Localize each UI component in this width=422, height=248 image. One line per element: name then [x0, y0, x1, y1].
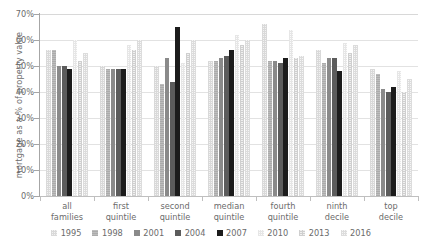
bar [175, 27, 179, 196]
bar [391, 87, 395, 196]
bar [273, 61, 277, 196]
bar [111, 69, 115, 196]
bar [106, 69, 110, 196]
bar [245, 40, 249, 196]
bar [219, 58, 223, 196]
bar [208, 61, 212, 196]
x-axis-category-label-line: quintile [148, 212, 202, 223]
legend-item-2007[interactable]: 2007 [217, 228, 247, 238]
bar [299, 56, 303, 196]
bar [327, 58, 331, 196]
bar [386, 92, 390, 196]
bar [181, 63, 185, 196]
bar [370, 69, 374, 196]
y-axis-tick-mark [34, 170, 39, 171]
legend-label: 2016 [350, 228, 371, 238]
bar [402, 92, 406, 196]
legend-swatch-icon [134, 230, 140, 236]
bar [268, 61, 272, 196]
x-axis-category-label-line: quintile [256, 212, 310, 223]
bar [191, 40, 195, 196]
y-axis-tick-label: 70% [4, 9, 34, 19]
bar [46, 50, 50, 196]
bar-groups [40, 14, 418, 196]
y-axis-tick-label: 30% [4, 113, 34, 123]
bar [353, 45, 357, 196]
x-axis-category-label: firstquintile [94, 201, 148, 222]
bar [397, 71, 401, 196]
x-axis-category-label-line: top [364, 201, 418, 212]
legend-item-2001[interactable]: 2001 [134, 228, 164, 238]
legend-label: 2013 [309, 228, 330, 238]
bar [186, 53, 190, 196]
y-axis-tick-label: 0% [4, 191, 34, 201]
x-axis-labels: allfamiliesfirstquintilesecondquintileme… [40, 201, 418, 222]
y-axis-tick-label: 40% [4, 87, 34, 97]
legend-swatch-icon [175, 230, 181, 236]
legend-label: 1998 [102, 228, 123, 238]
bar [262, 24, 266, 196]
legend-item-2004[interactable]: 2004 [175, 228, 205, 238]
bar [337, 71, 341, 196]
bar [224, 56, 228, 196]
bar [52, 50, 56, 196]
legend-item-2016[interactable]: 2016 [341, 228, 371, 238]
x-axis-category-label-line: median [202, 201, 256, 212]
bar [116, 69, 120, 196]
bar [100, 66, 104, 196]
y-axis-tick-mark [34, 40, 39, 41]
legend-item-1998[interactable]: 1998 [92, 228, 122, 238]
bar [278, 63, 282, 196]
legend-label: 2004 [185, 228, 206, 238]
y-axis-tick-mark [34, 14, 39, 15]
bar-group [310, 14, 364, 196]
bar [67, 69, 71, 196]
bar [83, 53, 87, 196]
y-axis-tick-label: 60% [4, 35, 34, 45]
bar [381, 89, 385, 196]
legend-item-1995[interactable]: 1995 [51, 228, 81, 238]
x-axis-category-label-line: all [40, 201, 94, 212]
bar-group [40, 14, 94, 196]
bar [165, 58, 169, 196]
bar [283, 58, 287, 196]
legend-swatch-icon [299, 230, 305, 236]
bar [229, 50, 233, 196]
bar [332, 58, 336, 196]
legend-label: 2007 [226, 228, 247, 238]
y-axis-tick-label: 10% [4, 165, 34, 175]
bar-group [202, 14, 256, 196]
bar [62, 66, 66, 196]
legend-swatch-icon [341, 230, 347, 236]
bar [121, 69, 125, 196]
bar [170, 82, 174, 196]
bar [214, 61, 218, 196]
legend-item-2010[interactable]: 2010 [258, 228, 288, 238]
x-axis-category-label: secondquintile [148, 201, 202, 222]
bar [316, 50, 320, 196]
x-axis-category-label-line: quintile [94, 212, 148, 223]
y-axis-tick-labels: 70%60%50%40%30%20%10%0% [0, 0, 34, 210]
legend-item-2013[interactable]: 2013 [299, 228, 329, 238]
chart-legend: 19951998200120042007201020132016 [0, 228, 422, 238]
bar [376, 74, 380, 196]
bar [343, 43, 347, 196]
bar [73, 40, 77, 196]
plot-area [40, 14, 418, 196]
y-axis-tick-mark [34, 118, 39, 119]
bar [240, 45, 244, 196]
legend-label: 1995 [61, 228, 82, 238]
x-axis-category-label: topdecile [364, 201, 418, 222]
legend-swatch-icon [92, 230, 98, 236]
bar [348, 53, 352, 196]
bar [160, 84, 164, 196]
legend-swatch-icon [51, 230, 57, 236]
bar [132, 50, 136, 196]
bar [294, 58, 298, 196]
bar [407, 79, 411, 196]
y-axis-tick-mark [34, 196, 39, 197]
bar [322, 63, 326, 196]
x-axis-category-label: allfamilies [40, 201, 94, 222]
x-axis-category-label-line: families [40, 212, 94, 223]
bar [78, 61, 82, 196]
